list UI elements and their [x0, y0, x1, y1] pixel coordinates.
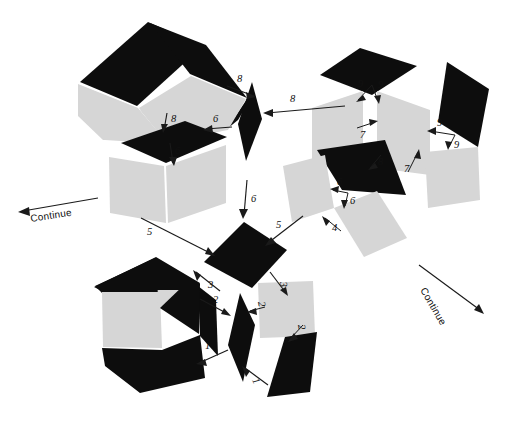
label-6-d: 6 [337, 176, 343, 187]
figure-canvas: 8 8 8 8 9 9 9 9 [0, 0, 510, 428]
label-9-c: 9 [437, 117, 443, 128]
right-light-square [425, 147, 480, 208]
bottom-left-cube-light-left-face [102, 292, 162, 348]
label-9-a: 9 [358, 78, 364, 89]
label-7-a: 7 [360, 129, 366, 140]
label-6-c: 6 [251, 193, 257, 204]
right-light-square-face [425, 147, 480, 208]
label-8-c: 8 [290, 93, 296, 104]
label-5-b: 5 [276, 219, 281, 230]
label-4-a: 4 [332, 222, 338, 233]
figure-background [0, 0, 510, 428]
label-2-a: 2 [213, 294, 219, 305]
label-8-d: 8 [378, 156, 384, 167]
label-8-b: 8 [171, 113, 177, 124]
label-9-b: 9 [378, 79, 384, 90]
label-6-a: 6 [213, 113, 219, 124]
label-3-a: 3 [207, 279, 213, 290]
mid-left-cube-left-face [109, 157, 166, 223]
label-6-e: 6 [350, 195, 356, 206]
exploded-polyhedron-figure: 8 8 8 8 9 9 9 9 [0, 0, 510, 428]
label-3-b: 3 [278, 280, 290, 287]
label-9-d: 9 [454, 139, 460, 150]
label-1-a: 1 [205, 340, 210, 351]
label-5-a: 5 [147, 226, 152, 237]
label-7-b: 7 [404, 163, 410, 174]
label-8-a: 8 [237, 73, 243, 84]
label-6-b: 6 [175, 145, 181, 156]
